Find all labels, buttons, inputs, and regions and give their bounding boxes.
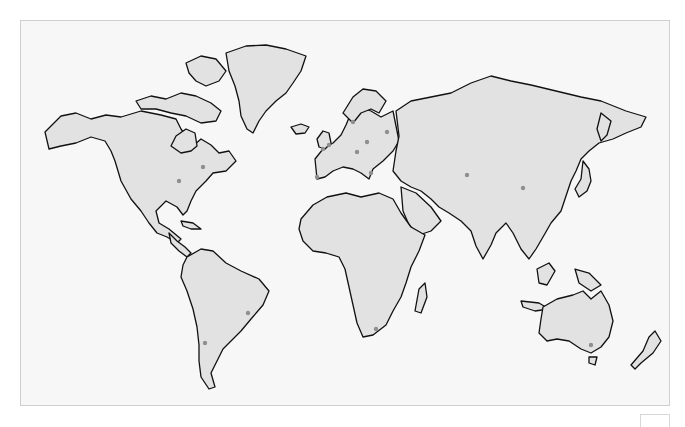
map-marker-russia-moscow[interactable] bbox=[385, 130, 389, 134]
north-america bbox=[45, 111, 236, 243]
map-marker-uk[interactable] bbox=[327, 143, 331, 147]
map-marker-iberia[interactable] bbox=[315, 175, 319, 179]
baffin-island bbox=[186, 56, 226, 86]
map-marker-central-europe[interactable] bbox=[355, 150, 359, 154]
new-guinea bbox=[575, 269, 601, 291]
map-marker-north-america-central[interactable] bbox=[177, 179, 181, 183]
iceland bbox=[291, 124, 309, 134]
new-zealand bbox=[631, 331, 661, 369]
map-marker-mediterranean-east[interactable] bbox=[369, 171, 373, 175]
map-marker-china[interactable] bbox=[521, 186, 525, 190]
map-marker-scandinavia[interactable] bbox=[351, 120, 355, 124]
south-america bbox=[181, 249, 269, 389]
map-marker-argentina-chile[interactable] bbox=[203, 341, 207, 345]
map-marker-germany[interactable] bbox=[365, 140, 369, 144]
cuba bbox=[181, 221, 201, 229]
world-map[interactable] bbox=[21, 21, 671, 407]
tasmania bbox=[589, 357, 597, 365]
australia bbox=[539, 291, 613, 353]
madagascar bbox=[415, 283, 427, 313]
map-marker-south-africa[interactable] bbox=[374, 327, 378, 331]
map-marker-north-america-east-coast[interactable] bbox=[201, 165, 205, 169]
borneo bbox=[537, 263, 555, 285]
map-frame bbox=[20, 20, 670, 406]
map-marker-brazil[interactable] bbox=[246, 311, 250, 315]
corner-box bbox=[640, 414, 670, 427]
map-marker-france-paris[interactable] bbox=[321, 147, 325, 151]
greenland bbox=[226, 45, 306, 133]
central-america bbox=[169, 233, 191, 257]
map-marker-central-asia[interactable] bbox=[465, 173, 469, 177]
map-marker-australia-southeast[interactable] bbox=[589, 343, 593, 347]
